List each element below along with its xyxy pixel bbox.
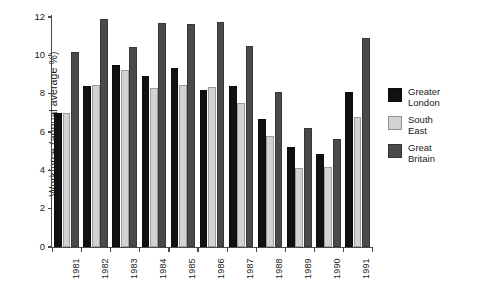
bar — [171, 68, 179, 247]
bar — [295, 168, 303, 247]
bar — [324, 167, 332, 247]
x-axis-tick-mark — [285, 247, 286, 252]
x-axis-tick-mark — [343, 247, 344, 252]
x-axis-tick-mark — [227, 247, 228, 252]
y-axis-tick-label: 10 — [34, 49, 45, 60]
bar — [179, 85, 187, 247]
legend-swatch — [388, 88, 402, 102]
bar — [258, 119, 266, 247]
bar — [316, 154, 324, 247]
x-axis-tick-mark — [314, 247, 315, 252]
bar — [237, 103, 245, 247]
x-axis-tick-label: 1990 — [332, 258, 342, 279]
x-axis-line — [51, 247, 373, 248]
y-axis-tick-label: 0 — [40, 241, 45, 252]
y-axis-tick-label: 12 — [34, 11, 45, 22]
x-axis-tick-mark — [168, 247, 169, 252]
x-axis-tick-label: 1985 — [187, 258, 197, 279]
x-axis-tick-label: 1983 — [129, 258, 139, 279]
bar — [208, 87, 216, 247]
legend-swatch — [388, 144, 402, 158]
y-axis-tick-label: 2 — [40, 202, 45, 213]
bar — [83, 86, 91, 247]
bar — [304, 128, 312, 247]
legend-label: Greater London — [408, 87, 440, 108]
y-axis-tick-label: 4 — [40, 164, 45, 175]
bar — [200, 90, 208, 247]
bar — [287, 147, 295, 247]
x-axis-tick-mark — [372, 247, 373, 252]
bar — [92, 85, 100, 247]
x-axis-tick-label: 1991 — [361, 258, 371, 279]
legend-item: South East — [388, 115, 480, 136]
bar — [229, 86, 237, 247]
x-axis-tick-label: 1989 — [303, 258, 313, 279]
bar — [129, 47, 137, 247]
legend-item: Great Britain — [388, 143, 480, 164]
bar-chart: Workforce (annual average %) 024681012 1… — [0, 0, 481, 295]
legend-item: Greater London — [388, 87, 480, 108]
bar — [150, 88, 158, 247]
y-axis-tick-label: 6 — [40, 126, 45, 137]
bar — [63, 113, 71, 247]
bar — [71, 52, 79, 248]
bar — [54, 113, 62, 247]
bar — [187, 24, 195, 247]
x-axis-tick-mark — [256, 247, 257, 252]
x-axis-tick-label: 1988 — [274, 258, 284, 279]
x-axis-tick-mark — [52, 247, 53, 252]
x-axis-tick-mark — [110, 247, 111, 252]
bar — [362, 38, 370, 247]
plot-area — [52, 17, 372, 247]
y-axis-tick-label: 8 — [40, 87, 45, 98]
x-axis-tick-label: 1982 — [100, 258, 110, 279]
bar — [142, 76, 150, 247]
x-axis-tick-mark — [81, 247, 82, 252]
x-axis-tick-label: 1984 — [158, 258, 168, 279]
chart-legend: Greater LondonSouth EastGreat Britain — [388, 87, 480, 171]
bar — [112, 65, 120, 247]
legend-label: South East — [408, 115, 433, 136]
bar — [275, 92, 283, 247]
bar — [158, 23, 166, 247]
bar — [100, 19, 108, 247]
bar — [354, 117, 362, 247]
legend-swatch — [388, 116, 402, 130]
bar — [333, 139, 341, 247]
legend-label: Great Britain — [408, 143, 435, 164]
x-axis-tick-label: 1986 — [216, 258, 226, 279]
x-axis-tick-mark — [139, 247, 140, 252]
bar — [266, 136, 274, 247]
bar — [246, 46, 254, 247]
bar — [217, 22, 225, 247]
bar — [121, 70, 129, 247]
bar — [345, 92, 353, 247]
x-axis-tick-label: 1987 — [245, 258, 255, 279]
x-axis-tick-label: 1981 — [71, 258, 81, 279]
x-axis-tick-mark — [197, 247, 198, 252]
